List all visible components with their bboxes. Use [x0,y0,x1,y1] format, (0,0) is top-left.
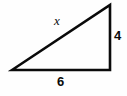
vertical-leg-label: 4 [114,29,121,42]
triangle-figure: x 4 6 [0,0,127,96]
horizontal-leg-label: 6 [57,75,64,88]
right-triangle-outline [12,5,110,70]
hypotenuse-label: x [54,14,60,27]
